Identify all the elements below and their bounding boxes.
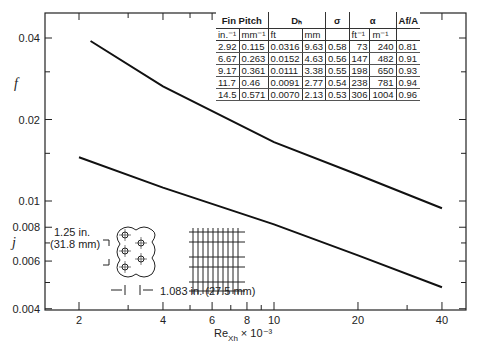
units-row: in.⁻¹mm⁻¹ftmmft⁻¹m⁻¹ — [216, 29, 420, 41]
table-cell: 0.361 — [239, 65, 268, 77]
f-axis-label: f — [14, 76, 20, 91]
y-tick-label: 0.02 — [19, 114, 40, 126]
table-cell: 650 — [370, 65, 396, 77]
table-cell: 2.77 — [302, 77, 326, 89]
table-cell: 147 — [349, 53, 370, 65]
table-cell: 73 — [349, 41, 370, 53]
table-cell: 482 — [370, 53, 396, 65]
y-tick-label: 0.004 — [12, 303, 40, 315]
table-cell: 4.63 — [302, 53, 326, 65]
table-cell: 0.46 — [239, 77, 268, 89]
unit-cell: in.⁻¹ — [216, 29, 239, 41]
table-cell: 0.0111 — [268, 65, 302, 77]
table-cell: 0.56 — [326, 53, 350, 65]
table-cell: 0.0316 — [268, 41, 302, 53]
table-row: 14.50.5710.00702.130.5330610040.96 — [216, 89, 420, 101]
unit-cell: mm⁻¹ — [239, 29, 268, 41]
x-tick-label: 10 — [268, 314, 280, 326]
table-cell: 0.94 — [396, 77, 420, 89]
table-row: 9.170.3610.01113.380.551986500.93 — [216, 65, 420, 77]
table-cell: 0.0091 — [268, 77, 302, 89]
table-cell: 198 — [349, 65, 370, 77]
unit-cell — [326, 29, 350, 41]
j-curve — [79, 157, 442, 287]
y-tick-label: 0.04 — [19, 32, 40, 44]
table-cell: 9.17 — [216, 65, 239, 77]
x-tick-label: 20 — [352, 314, 364, 326]
x-tick-label: 6 — [209, 314, 215, 326]
table-cell: 0.91 — [396, 53, 420, 65]
spacing-transverse-mm-label: (31.8 mm) — [50, 238, 100, 250]
table-cell: 0.54 — [326, 77, 350, 89]
table-cell: 0.115 — [239, 41, 268, 53]
unit-cell — [396, 29, 420, 41]
table-cell: 238 — [349, 77, 370, 89]
unit-cell: ft⁻¹ — [349, 29, 370, 41]
j-axis-label: j — [10, 235, 16, 250]
table-cell: 2.13 — [302, 89, 326, 101]
table-cell: 0.0152 — [268, 53, 302, 65]
fin-geometry-table: Fin Pitch Dₕ σ α Af/A in.⁻¹mm⁻¹ftmmft⁻¹m… — [216, 12, 420, 101]
table-cell: 0.93 — [396, 65, 420, 77]
unit-cell: ft — [268, 29, 302, 41]
table-cell: 0.53 — [326, 89, 350, 101]
table-cell: 11.7 — [216, 77, 239, 89]
table-row: 6.670.2630.01524.630.561474820.91 — [216, 53, 420, 65]
spacing-transverse-label: 1.25 in. — [54, 226, 90, 238]
unit-cell: mm — [302, 29, 326, 41]
table-cell: 9.63 — [302, 41, 326, 53]
header-af-a: Af/A — [396, 12, 420, 29]
tube-bank-diagram — [103, 227, 155, 295]
table-cell: 240 — [370, 41, 396, 53]
header-alpha: α — [349, 12, 396, 29]
y-tick-label: 0.006 — [12, 255, 40, 267]
header-fin-pitch: Fin Pitch — [216, 12, 268, 29]
y-tick-label: 0.008 — [12, 221, 40, 233]
table-cell: 0.96 — [396, 89, 420, 101]
table-cell: 0.81 — [396, 41, 420, 53]
x-tick-label: 8 — [244, 314, 250, 326]
table-cell: 1004 — [370, 89, 396, 101]
table-cell: 6.67 — [216, 53, 239, 65]
x-tick-label: 4 — [160, 314, 166, 326]
table-cell: 14.5 — [216, 89, 239, 101]
spacing-longitudinal-label: 1.083 in. (27.5 mm) — [160, 285, 255, 297]
x-axis-label: ReXh× 10⁻³ — [214, 327, 273, 343]
table-cell: 0.263 — [239, 53, 268, 65]
header-dh: Dₕ — [268, 12, 326, 29]
y-tick-label: 0.01 — [19, 195, 40, 207]
table-cell: 0.55 — [326, 65, 350, 77]
table-row: 11.70.460.00912.770.542387810.94 — [216, 77, 420, 89]
table-cell: 0.571 — [239, 89, 268, 101]
header-sigma: σ — [326, 12, 350, 29]
table-cell: 3.38 — [302, 65, 326, 77]
x-tick-label: 40 — [436, 314, 448, 326]
table-cell: 2.92 — [216, 41, 239, 53]
table-cell: 0.0070 — [268, 89, 302, 101]
table-cell: 0.58 — [326, 41, 350, 53]
table-row: 2.920.1150.03169.630.58732400.81 — [216, 41, 420, 53]
table-cell: 781 — [370, 77, 396, 89]
x-tick-label: 2 — [76, 314, 82, 326]
unit-cell: m⁻¹ — [370, 29, 396, 41]
table-cell: 306 — [349, 89, 370, 101]
